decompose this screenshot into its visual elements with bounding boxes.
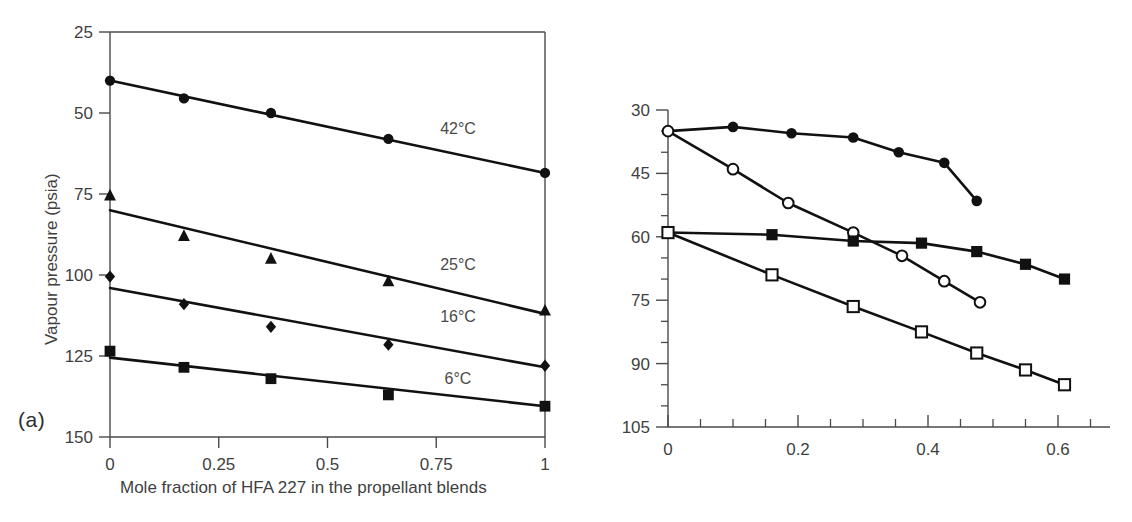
chart-b-data-point [1020, 259, 1031, 270]
chart-b-data-point [939, 276, 950, 287]
chart-a-series-annotation: 16°C [440, 308, 476, 325]
chart-b-y-tick-label: 105 [622, 418, 650, 437]
chart-b-y-tick-label: 30 [631, 101, 650, 120]
chart-b-data-point [971, 246, 982, 257]
chart-b-data-point [1059, 273, 1070, 284]
chart-b-x-tick-label: 0.4 [916, 440, 940, 459]
chart-b-data-point [971, 347, 982, 358]
chart-b-svg: 105907560453000.20.40.6 [570, 0, 1132, 522]
chart-b-data-point [848, 301, 859, 312]
chart-a-y-axis-label: Vapour pressure (psia) [42, 173, 62, 345]
chart-a-trend-line [110, 81, 545, 173]
chart-panel-b: 105907560453000.20.40.6 (b) Mole fractio… [570, 0, 1132, 522]
chart-a-y-ticks: 150125100755025 [65, 23, 110, 447]
chart-a-data-point [178, 229, 190, 241]
chart-b-series [663, 126, 986, 308]
chart-a-series-annotation: 42°C [440, 120, 476, 137]
chart-a-series: 42°C [105, 75, 550, 178]
chart-b-y-tick-label: 60 [631, 228, 650, 247]
chart-a-data-point [105, 346, 116, 357]
chart-b-y-ticks: 1059075604530 [622, 101, 668, 437]
panel-a-label: (a) [18, 408, 45, 432]
chart-b-data-point [939, 158, 950, 169]
chart-a-data-point [179, 362, 190, 373]
chart-a-y-tick-label: 75 [74, 185, 93, 204]
chart-panel-a: 15012510075502500.250.50.75142°C25°C16°C… [0, 0, 570, 522]
chart-a-y-tick-label: 25 [74, 23, 93, 42]
chart-b-data-point [766, 229, 777, 240]
chart-b-data-point [848, 132, 859, 143]
chart-a-x-tick-label: 0.25 [202, 455, 235, 474]
chart-b-x-tick-label: 0.2 [786, 440, 810, 459]
chart-b-data-point [897, 251, 908, 262]
chart-a-svg: 15012510075502500.250.50.75142°C25°C16°C… [0, 0, 570, 522]
chart-a-data-point [383, 389, 394, 400]
figure-container: 15012510075502500.250.50.75142°C25°C16°C… [0, 0, 1132, 522]
chart-b-x-tick-label: 0.6 [1046, 440, 1070, 459]
chart-b-x-tick-label: 0 [663, 440, 672, 459]
chart-b-data-line [668, 233, 1065, 385]
chart-b-axes [668, 110, 1110, 427]
chart-a-series-annotation: 25°C [440, 256, 476, 273]
chart-b-series [662, 227, 1070, 390]
chart-b-data-point [971, 196, 982, 207]
chart-b-y-tick-label: 45 [631, 164, 650, 183]
chart-b-data-point [893, 147, 904, 158]
chart-a-series-annotation: 6°C [445, 370, 472, 387]
chart-a-x-ticks: 00.250.50.751 [105, 437, 549, 474]
chart-a-data-point [266, 321, 276, 333]
chart-a-y-tick-label: 125 [65, 347, 93, 366]
chart-a-series: 25°C [104, 189, 551, 316]
chart-a-data-point [266, 108, 276, 118]
chart-b-series [663, 122, 982, 207]
chart-b-data-point [662, 227, 673, 238]
chart-b-data-point [1059, 379, 1070, 390]
chart-a-series: 16°C [105, 270, 550, 372]
chart-b-data-point [728, 164, 739, 175]
chart-a-data-point [540, 168, 550, 178]
chart-b-data-line [668, 127, 977, 201]
chart-a-trend-line [110, 288, 545, 367]
chart-a-data-point [105, 75, 115, 85]
chart-a-x-tick-label: 0.75 [420, 455, 453, 474]
chart-a-axes [110, 32, 545, 437]
chart-b-data-point [766, 269, 777, 280]
chart-a-data-point [179, 93, 189, 103]
chart-a-data-point [265, 252, 277, 264]
chart-a-trend-line [110, 210, 545, 314]
chart-a-y-tick-label: 150 [65, 428, 93, 447]
chart-b-data-line [668, 131, 980, 302]
chart-a-data-point [540, 401, 551, 412]
chart-b-data-point [848, 235, 859, 246]
chart-b-y-tick-label: 90 [631, 355, 650, 374]
chart-a-y-tick-label: 100 [65, 266, 93, 285]
chart-a-data-point [539, 304, 551, 316]
chart-b-data-point [663, 126, 674, 137]
chart-b-data-point [916, 326, 927, 337]
chart-a-x-tick-label: 0 [105, 455, 114, 474]
chart-b-x-ticks: 00.20.40.6 [663, 415, 1090, 459]
chart-b-data-point [786, 128, 797, 139]
chart-b-data-point [1020, 364, 1031, 375]
chart-a-data-point [266, 373, 277, 384]
chart-a-data-point [383, 134, 393, 144]
chart-b-data-point [975, 297, 986, 308]
chart-a-x-tick-label: 1 [540, 455, 549, 474]
chart-a-x-axis-label: Mole fraction of HFA 227 in the propella… [120, 478, 487, 498]
chart-a-data-point [540, 360, 550, 372]
chart-a-trend-line [110, 358, 545, 407]
chart-a-y-tick-label: 50 [74, 104, 93, 123]
chart-b-data-point [728, 122, 739, 133]
chart-a-x-tick-label: 0.5 [316, 455, 340, 474]
chart-b-data-point [916, 238, 927, 249]
chart-b-data-point [783, 198, 794, 209]
chart-a-data-point [105, 270, 115, 282]
chart-b-y-tick-label: 75 [631, 291, 650, 310]
